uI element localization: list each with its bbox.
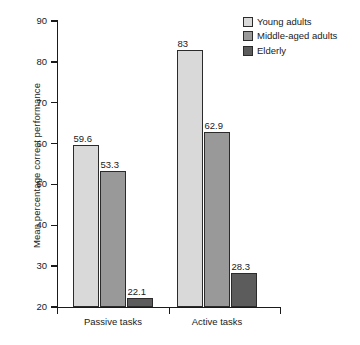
bar-value-label: 53.3 <box>101 160 120 170</box>
legend-label-young-adults: Young adults <box>257 17 312 27</box>
legend-swatch-elderly <box>243 46 253 56</box>
legend-item-young-adults: Young adults <box>243 15 337 28</box>
y-tick-90 <box>51 20 58 21</box>
x-tick-2 <box>280 307 281 314</box>
bar-passive-tasks-young-adults <box>73 145 99 307</box>
bar-value-label: 62.9 <box>205 121 224 131</box>
y-tick-label-40: 40 <box>7 220 47 230</box>
bar-passive-tasks-elderly <box>127 298 153 307</box>
bar-active-tasks-middle-aged-adults <box>204 132 230 307</box>
legend-item-elderly: Elderly <box>243 44 337 57</box>
y-tick-60 <box>51 143 58 144</box>
x-tick-0 <box>57 307 58 314</box>
y-axis-title: Mean percentage correct performance <box>31 41 42 291</box>
x-tick-1 <box>169 307 170 314</box>
bar-value-label: 22.1 <box>128 287 147 297</box>
y-tick-80 <box>51 61 58 62</box>
y-tick-50 <box>51 184 58 185</box>
bar-active-tasks-young-adults <box>177 50 203 307</box>
legend-label-middle-aged-adults: Middle-aged adults <box>257 31 337 41</box>
chart-legend: Young adults Middle-aged adults Elderly <box>243 15 337 59</box>
y-tick-label-70: 70 <box>7 98 47 108</box>
y-tick-30 <box>51 265 58 266</box>
bar-passive-tasks-middle-aged-adults <box>100 171 126 307</box>
bar-value-label: 59.6 <box>74 134 93 144</box>
x-axis-label-active-tasks: Active tasks <box>167 317 267 327</box>
legend-item-middle-aged-adults: Middle-aged adults <box>243 30 337 43</box>
y-tick-70 <box>51 102 58 103</box>
legend-swatch-young-adults <box>243 17 253 27</box>
y-tick-label-30: 30 <box>7 261 47 271</box>
y-tick-label-90: 90 <box>7 16 47 26</box>
bar-active-tasks-elderly <box>231 273 257 307</box>
y-tick-label-50: 50 <box>7 179 47 189</box>
bar-chart: Mean percentage correct performance 2030… <box>0 0 360 345</box>
bar-value-label: 28.3 <box>232 262 251 272</box>
y-tick-40 <box>51 225 58 226</box>
caption-sliver <box>0 339 360 345</box>
legend-swatch-middle-aged-adults <box>243 31 253 41</box>
y-tick-label-80: 80 <box>7 57 47 67</box>
y-tick-label-60: 60 <box>7 139 47 149</box>
legend-label-elderly: Elderly <box>257 46 286 56</box>
y-tick-label-20: 20 <box>7 302 47 312</box>
bar-value-label: 83 <box>178 39 189 49</box>
x-axis-label-passive-tasks: Passive tasks <box>63 317 163 327</box>
